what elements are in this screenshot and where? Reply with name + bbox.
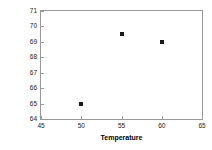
y-axis-tick-label: 71	[30, 8, 37, 15]
y-axis-tick-label: 64	[30, 116, 37, 123]
x-axis-tick-label: 45	[37, 123, 44, 130]
x-axis-tick-mark	[202, 116, 203, 119]
plot-area: 64656667686970714550556065	[40, 10, 203, 120]
x-axis-tick-label: 60	[158, 123, 165, 130]
y-axis-tick-mark	[41, 119, 44, 120]
x-axis-tick-mark	[41, 116, 42, 119]
y-axis-tick-label: 65	[30, 100, 37, 107]
y-axis-tick-mark	[41, 26, 44, 27]
y-axis-tick-label: 66	[30, 85, 37, 92]
y-axis-tick-mark	[41, 88, 44, 89]
y-axis-tick-mark	[41, 73, 44, 74]
x-axis-title: Temperature	[40, 134, 203, 141]
y-axis-tick-label: 67	[30, 69, 37, 76]
y-axis-tick-mark	[41, 11, 44, 12]
scatter-chart-figure: 64656667686970714550556065 Temperature Y…	[0, 0, 212, 150]
y-axis-tick-mark	[41, 42, 44, 43]
y-axis-tick-label: 70	[30, 23, 37, 30]
y-axis-tick-mark	[41, 104, 44, 105]
x-axis-tick-label: 55	[118, 123, 125, 130]
x-axis-tick-mark	[162, 116, 163, 119]
data-point-marker	[79, 102, 83, 106]
y-axis-tick-label: 69	[30, 39, 37, 46]
data-point-marker	[160, 40, 164, 44]
y-axis-tick-label: 68	[30, 54, 37, 61]
x-axis-tick-mark	[122, 116, 123, 119]
x-axis-tick-label: 65	[198, 123, 205, 130]
y-axis-tick-mark	[41, 57, 44, 58]
x-axis-tick-label: 50	[78, 123, 85, 130]
x-axis-tick-mark	[81, 116, 82, 119]
data-point-marker	[120, 32, 124, 36]
